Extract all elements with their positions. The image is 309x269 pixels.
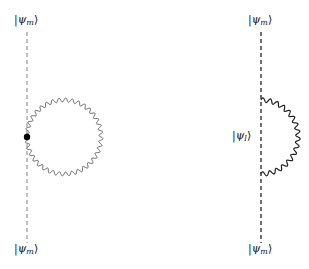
left-top-state-label: |ψm⟩ bbox=[14, 14, 38, 25]
state-index: m bbox=[26, 18, 34, 27]
left-photon-loop bbox=[25, 98, 103, 176]
feynman-diagrams bbox=[0, 0, 309, 269]
vertex-dot bbox=[24, 134, 30, 140]
state-index: l bbox=[244, 134, 247, 143]
left-bottom-state-label: |ψm⟩ bbox=[14, 243, 38, 254]
right-photon-arc bbox=[261, 98, 300, 176]
right-top-state-label: |ψm⟩ bbox=[248, 14, 272, 25]
state-index: m bbox=[260, 247, 268, 256]
right-middle-state-label: |ψl⟩ bbox=[232, 130, 251, 141]
state-index: m bbox=[260, 18, 268, 27]
right-bottom-state-label: |ψm⟩ bbox=[248, 243, 272, 254]
state-index: m bbox=[26, 247, 34, 256]
